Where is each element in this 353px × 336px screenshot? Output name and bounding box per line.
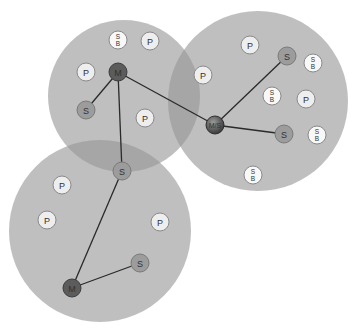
node-parked[interactable]: P [241,36,259,54]
node-slave[interactable]: S [278,47,296,65]
node-slave[interactable]: S [131,254,149,272]
node-standby[interactable]: SB [263,87,281,105]
node-label-top: S [116,33,121,40]
scatternet-diagram: SBPPMSPPSPSSBSBPM/SSSBSBPPPSM [0,0,353,336]
node-label-bottom: B [311,63,315,70]
node-label: S [119,167,125,177]
node-slave[interactable]: S [275,125,293,143]
node-label-bottom: B [270,96,274,103]
node-master-slave[interactable]: M/S [206,116,224,134]
node-label-bottom: B [116,40,120,47]
node-label: P [157,218,163,228]
node-label: P [44,216,50,226]
node-label-top: S [315,128,320,135]
node-parked[interactable]: P [136,109,154,127]
node-parked[interactable]: P [38,211,56,229]
node-master[interactable]: M [109,63,127,81]
node-label-top: S [311,56,316,63]
node-standby[interactable]: SB [244,166,262,184]
node-parked[interactable]: P [151,213,169,231]
node-standby[interactable]: SB [308,126,326,144]
node-label: P [83,68,89,78]
node-label: M [114,68,122,78]
node-label: S [83,106,89,116]
node-standby[interactable]: SB [304,54,322,72]
node-standby[interactable]: SB [109,31,127,49]
node-label: P [200,71,206,81]
node-master[interactable]: M [63,279,81,297]
node-label: S [284,52,290,62]
node-label: S [281,130,287,140]
node-label: P [59,181,65,191]
node-parked[interactable]: P [297,90,315,108]
node-parked[interactable]: P [141,32,159,50]
node-label-top: S [251,168,256,175]
node-label-top: S [270,89,275,96]
node-label: P [303,95,309,105]
node-slave[interactable]: S [113,162,131,180]
node-label: P [247,41,253,51]
node-label: P [142,114,148,124]
node-label: M [68,284,76,294]
node-parked[interactable]: P [194,66,212,84]
node-parked[interactable]: P [53,176,71,194]
node-label-bottom: B [251,175,255,182]
node-slave[interactable]: S [77,101,95,119]
node-label-bottom: B [315,135,319,142]
node-parked[interactable]: P [77,63,95,81]
node-label: P [147,37,153,47]
node-label: S [137,259,143,269]
node-label: M/S [209,122,222,129]
